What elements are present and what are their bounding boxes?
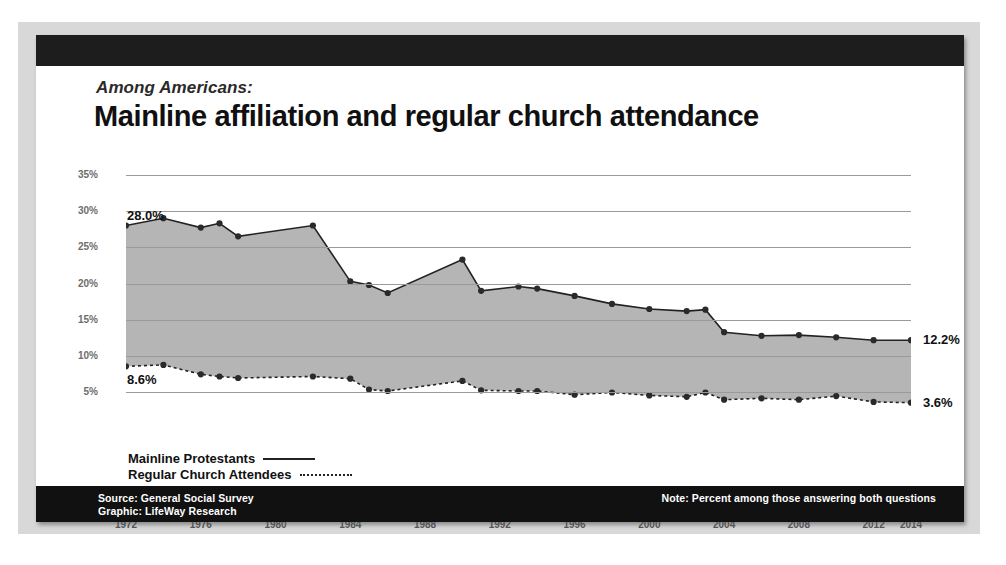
footer-source-block: Source: General Social Survey Graphic: L…: [98, 492, 254, 518]
callout-start-attendees: 8.6%: [127, 372, 157, 387]
legend-label-mainline: Mainline Protestants: [128, 451, 255, 467]
data-point-attendees: [198, 371, 204, 377]
y-axis-tick-label: 25%: [58, 241, 98, 252]
gridline: [126, 284, 911, 285]
data-point-mainline: [235, 233, 241, 239]
data-point-mainline: [198, 225, 204, 231]
legend-item-mainline: Mainline Protestants: [128, 451, 352, 467]
gridline: [126, 175, 911, 176]
data-point-attendees: [833, 393, 839, 399]
chart-legend: Mainline Protestants Regular Church Atte…: [128, 451, 352, 483]
data-point-attendees: [459, 378, 465, 384]
chart-svg: [126, 163, 911, 415]
data-point-mainline: [216, 220, 222, 226]
legend-swatch-dotted-line: [300, 471, 352, 479]
area-fill-between-series: [126, 218, 911, 403]
data-point-mainline: [534, 286, 540, 292]
gridline: [126, 247, 911, 248]
footer-note: Note: Percent among those answering both…: [661, 492, 936, 505]
legend-swatch-solid-line: [263, 455, 315, 463]
chart-title: Mainline affiliation and regular church …: [94, 100, 759, 133]
gridline: [126, 392, 911, 393]
y-axis-tick-label: 35%: [58, 169, 98, 180]
data-point-mainline: [646, 306, 652, 312]
data-point-attendees: [796, 397, 802, 403]
chart-canvas: Among Americans: Mainline affiliation an…: [36, 66, 964, 486]
footer-graphic: Graphic: LifeWay Research: [98, 505, 254, 518]
footer-bar: Source: General Social Survey Graphic: L…: [36, 486, 964, 522]
data-point-mainline: [459, 257, 465, 263]
infographic-page: Among Americans: Mainline affiliation an…: [0, 0, 1006, 565]
y-axis-tick-label: 5%: [58, 386, 98, 397]
y-axis-tick-label: 10%: [58, 350, 98, 361]
data-point-attendees: [871, 399, 877, 405]
gridline: [126, 320, 911, 321]
gridline: [126, 211, 911, 212]
data-point-mainline: [833, 334, 839, 340]
data-point-mainline: [702, 307, 708, 313]
callout-end-mainline: 12.2%: [923, 332, 960, 347]
y-axis-tick-label: 15%: [58, 314, 98, 325]
y-axis-labels: 35%30%25%20%15%10%5%: [58, 163, 98, 415]
data-point-mainline: [478, 288, 484, 294]
data-point-attendees: [310, 373, 316, 379]
data-point-attendees: [235, 375, 241, 381]
plot-area: [126, 163, 911, 415]
data-point-mainline: [721, 329, 727, 335]
data-point-mainline: [572, 293, 578, 299]
data-point-attendees: [160, 362, 166, 368]
data-point-mainline: [609, 301, 615, 307]
data-point-attendees: [684, 394, 690, 400]
data-point-attendees: [216, 373, 222, 379]
legend-item-attendees: Regular Church Attendees: [128, 467, 352, 483]
data-point-attendees: [721, 397, 727, 403]
callout-end-attendees: 3.6%: [923, 395, 953, 410]
chart-kicker: Among Americans:: [96, 78, 253, 98]
y-axis-tick-label: 20%: [58, 278, 98, 289]
data-point-attendees: [347, 376, 353, 382]
gridline: [126, 356, 911, 357]
data-point-mainline: [310, 222, 316, 228]
footer-source: Source: General Social Survey: [98, 492, 254, 505]
data-point-mainline: [871, 337, 877, 343]
callout-start-mainline: 28.0%: [127, 208, 164, 223]
y-axis-tick-label: 30%: [58, 205, 98, 216]
series-svg-wrapper: [126, 163, 911, 415]
data-point-mainline: [758, 333, 764, 339]
data-point-mainline: [684, 308, 690, 314]
data-point-attendees: [758, 395, 764, 401]
data-point-mainline: [796, 332, 802, 338]
legend-label-attendees: Regular Church Attendees: [128, 467, 292, 483]
data-point-mainline: [385, 290, 391, 296]
